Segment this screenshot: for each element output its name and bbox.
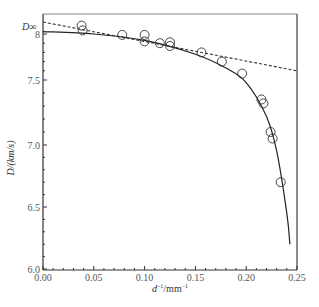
x-axis-title: d−1/mm−1 <box>152 283 188 294</box>
x-tick-label: 0.20 <box>237 272 255 283</box>
data-point-circle <box>238 69 247 78</box>
y-axis-title: D/(km/s) <box>5 140 17 177</box>
data-point-circle <box>217 57 226 66</box>
data-point-circle <box>276 178 285 187</box>
x-axis-tick-labels: 0.000.050.100.150.200.25 <box>34 272 306 283</box>
x-tick-label: 0.00 <box>34 272 52 283</box>
x-tick-label: 0.05 <box>85 272 103 283</box>
fitted-curve <box>43 32 290 245</box>
figure-caption <box>60 294 260 302</box>
y-tick-label: 7.0 <box>28 140 41 151</box>
x-tick-label: 0.10 <box>136 272 154 283</box>
y-tick-label: 7.5 <box>28 75 41 86</box>
x-tick-label: 0.25 <box>288 272 306 283</box>
chart: 6.06.57.07.58 0.000.050.100.150.200.25 D… <box>0 0 319 307</box>
d-infinity-label: D∞ <box>21 21 36 32</box>
y-tick-label: 6.5 <box>28 202 41 213</box>
plot-frame <box>43 14 297 270</box>
data-point-circle <box>118 30 127 39</box>
x-tick-label: 0.15 <box>187 272 205 283</box>
y-axis-tick-labels: 6.06.57.07.58 <box>28 29 41 275</box>
data-points <box>77 21 285 187</box>
